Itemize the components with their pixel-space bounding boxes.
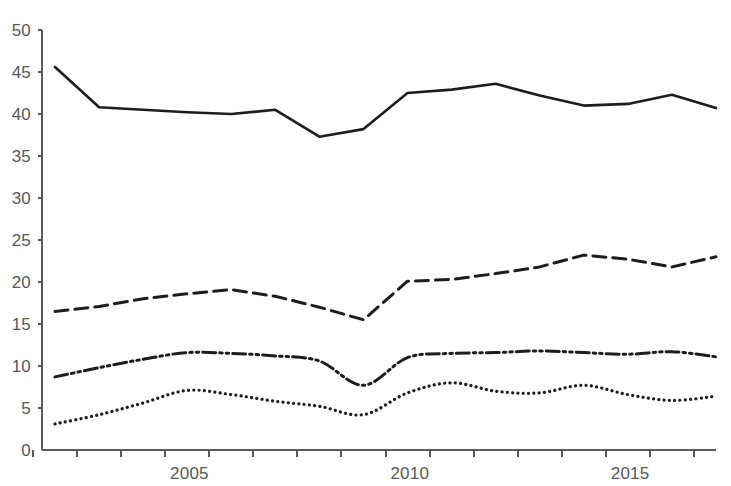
x-axis-tick-label: 2010 [390, 464, 429, 483]
chart-canvas: 05101520253035404550 200520102015 [0, 0, 731, 486]
y-axis-tick-labels: 05101520253035404550 [12, 21, 31, 460]
y-axis-tick-label: 20 [12, 273, 31, 292]
y-axis-tick-label: 35 [12, 147, 31, 166]
y-axis-tick-label: 0 [21, 441, 31, 460]
y-axis-tick-label: 5 [21, 399, 31, 418]
y-axis-tick-label: 10 [12, 357, 31, 376]
y-axis-tick-label: 15 [12, 315, 31, 334]
y-axis-tick-label: 30 [12, 189, 31, 208]
y-axis-tick-label: 40 [12, 105, 31, 124]
series-line-dotted [55, 383, 716, 424]
x-axis-tick-marks [33, 450, 694, 457]
y-axis-tick-label: 50 [12, 21, 31, 40]
x-axis-tick-label: 2005 [170, 464, 209, 483]
y-axis-tick-label: 45 [12, 63, 31, 82]
line-chart: 05101520253035404550 200520102015 [0, 0, 731, 486]
data-series-group [55, 67, 716, 424]
series-line-dash-dot [55, 351, 716, 385]
y-axis-tick-label: 25 [12, 231, 31, 250]
x-axis-tick-labels: 200520102015 [170, 464, 649, 483]
series-line-dashed [55, 255, 716, 320]
series-line-solid [55, 67, 716, 137]
x-axis-tick-label: 2015 [611, 464, 650, 483]
